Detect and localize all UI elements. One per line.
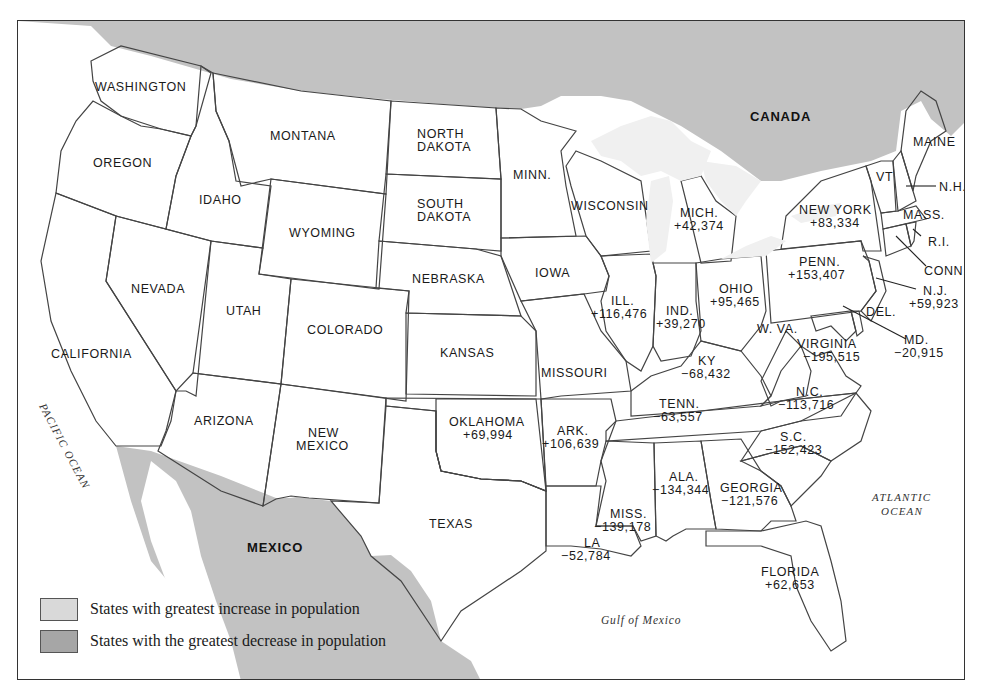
label-north-carolina: N.C. [796,385,823,399]
label-ohio: OHIO [719,282,753,296]
label-south-carolina: S.C. [780,430,807,444]
label-colorado: COLORADO [307,323,383,337]
label-new-mexico-line2: MEXICO [296,439,349,453]
label-tennessee: TENN. [659,397,700,411]
label-new-jersey: N.J. [923,284,948,298]
legend-swatch-decrease [40,630,78,653]
value-ohio: +95,465 [710,295,760,309]
value-north-carolina: −113,716 [778,398,834,412]
label-arizona: ARIZONA [194,414,254,428]
label-georgia: GEORGIA [720,481,783,495]
label-illinois: ILL. [611,294,634,308]
legend-item-increase: States with greatest increase in populat… [40,593,386,625]
label-pennsylvania: PENN. [799,255,840,269]
label-new-mexico-line1: NEW [308,426,339,440]
label-south-dakota-line1: SOUTH [417,197,464,211]
value-tennessee: −63,557 [653,410,703,424]
label-utah: UTAH [226,304,262,318]
value-indiana: +39,270 [656,317,706,331]
value-michigan: +42,374 [674,219,724,233]
label-alabama: ALA. [669,470,699,484]
value-maryland: −20,915 [894,346,944,360]
value-new-jersey: +59,923 [909,297,959,311]
label-oklahoma: OKLAHOMA [449,415,525,429]
label-rhode-island: R.I. [928,235,950,249]
label-oregon: OREGON [93,156,152,170]
label-new-york: NEW YORK [799,203,872,217]
value-louisiana: −52,784 [561,549,611,563]
value-georgia: −121,576 [721,494,778,508]
label-texas: TEXAS [429,517,473,531]
label-massachusetts: MASS. [903,208,945,222]
us-population-change-map: CANADA MEXICO PACIFIC OCEAN ATLANTIC OCE… [18,21,965,680]
label-south-dakota-line2: DAKOTA [417,210,471,224]
legend: States with greatest increase in populat… [40,593,386,657]
value-mississippi: −139,178 [594,520,651,534]
label-montana: MONTANA [270,129,336,143]
label-delaware: DEL. [866,305,896,319]
value-virginia: −195,515 [803,350,860,364]
label-kansas: KANSAS [440,346,494,360]
label-atlantic-ocean-line2: OCEAN [881,505,923,517]
label-arkansas: ARK. [557,424,589,438]
label-kentucky: KY [698,354,716,368]
value-oklahoma: +69,994 [463,428,513,442]
label-indiana: IND. [666,304,693,318]
legend-swatch-increase [40,598,78,621]
label-florida: FLORIDA [761,565,819,579]
label-iowa: IOWA [535,266,570,280]
legend-label-decrease: States with the greatest decrease in pop… [90,632,386,650]
label-canada: CANADA [750,109,811,124]
label-washington: WASHINGTON [95,80,186,94]
label-virginia: VIRGINIA [797,337,857,351]
label-missouri: MISSOURI [541,366,608,380]
label-minnesota: MINN. [513,168,551,182]
label-idaho: IDAHO [199,193,242,207]
label-nebraska: NEBRASKA [412,272,485,286]
label-mexico: MEXICO [247,540,303,555]
label-maine: MAINE [913,135,956,149]
value-kentucky: −68,432 [681,367,731,381]
label-wyoming: WYOMING [289,226,356,240]
value-florida: +62,653 [765,578,815,592]
legend-item-decrease: States with the greatest decrease in pop… [40,625,386,657]
label-gulf-of-mexico: Gulf of Mexico [601,614,681,627]
label-michigan: MICH. [680,206,718,220]
value-new-york: +83,334 [810,216,860,230]
value-pennsylvania: +153,407 [788,268,845,282]
label-california: CALIFORNIA [51,347,132,361]
label-atlantic-ocean-line1: ATLANTIC [871,491,931,503]
label-nevada: NEVADA [131,282,185,296]
label-vermont: VT [876,170,893,184]
label-maryland: MD. [904,333,929,347]
label-mississippi: MISS. [610,507,647,521]
map-frame: CANADA MEXICO PACIFIC OCEAN ATLANTIC OCE… [17,20,965,680]
value-illinois: +116,476 [591,307,647,321]
value-arkansas: +106,639 [542,437,599,451]
value-alabama: −134,344 [652,483,709,497]
label-louisiana: LA [584,536,601,550]
label-north-dakota-line1: NORTH [417,127,464,141]
label-connecticut: CONN. [924,264,965,278]
label-new-hampshire: N.H. [939,180,965,194]
legend-label-increase: States with greatest increase in populat… [90,600,360,618]
label-west-virginia: W. VA. [757,322,798,336]
label-north-dakota-line2: DAKOTA [417,140,471,154]
value-south-carolina: −152,423 [765,443,822,457]
label-wisconsin: WISCONSIN [571,199,649,213]
